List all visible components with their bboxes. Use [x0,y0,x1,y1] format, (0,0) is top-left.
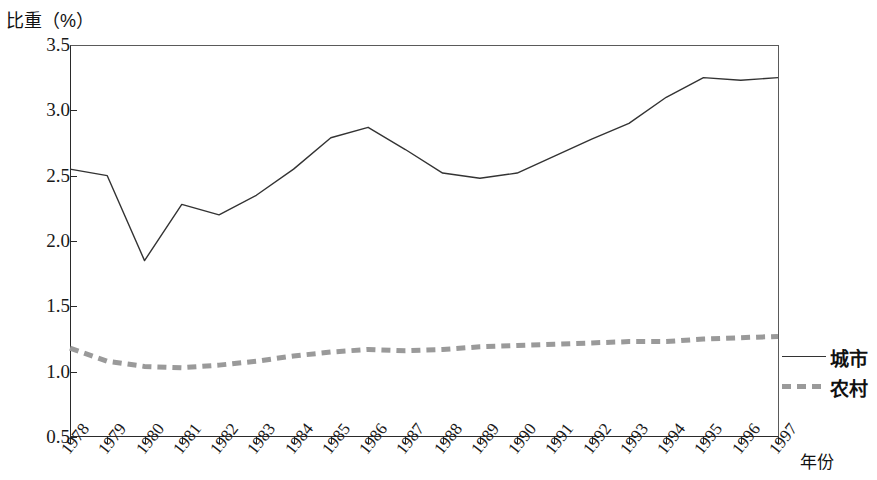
y-axis-tick-label: 2.5 [24,166,70,185]
legend-item-label: 城市 [830,344,868,371]
chart-series-line [70,78,778,261]
legend-item[interactable]: 城市 [782,342,877,372]
y-axis-tick-label: 1.5 [24,296,70,315]
chart-plot-area [70,45,779,437]
solid-line-icon [782,352,826,362]
chart-legend: 城市农村 [782,342,877,402]
chart-series-line [70,336,778,367]
x-axis-title: 年份 [800,448,834,473]
y-axis-tick-label: 2.0 [24,231,70,250]
y-axis-tick-label: 3.0 [24,100,70,119]
y-axis-tick-labels: 3.53.02.52.01.51.00.5 [16,0,70,480]
y-axis-tick-label: 1.0 [24,362,70,381]
y-axis-tick-label: 3.5 [24,35,70,54]
dashed-line-icon [782,382,826,392]
legend-item-label: 农村 [830,374,868,401]
chart-page: 比重（%） 3.53.02.52.01.51.00.5 197819791980… [0,0,877,480]
legend-item[interactable]: 农村 [782,372,877,402]
